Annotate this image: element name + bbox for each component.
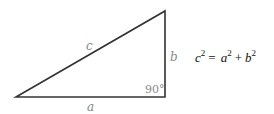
pythagorean-diagram: c b a 90° c2=a2+b2 — [0, 0, 274, 114]
eq-equals: = — [208, 50, 215, 65]
right-triangle — [16, 11, 165, 97]
eq-plus: + — [235, 50, 242, 65]
hypotenuse-label: c — [86, 39, 93, 53]
vertical-leg-label: b — [170, 50, 178, 64]
horizontal-leg-label: a — [87, 100, 94, 114]
eq-b-exp: 2 — [251, 48, 256, 58]
pythagorean-equation: c2=a2+b2 — [195, 48, 256, 65]
svg-text:c2=a2+b2: c2=a2+b2 — [195, 48, 256, 65]
right-angle-label: 90° — [145, 83, 165, 96]
eq-a-exp: 2 — [227, 48, 232, 58]
eq-c-exp: 2 — [201, 48, 206, 58]
